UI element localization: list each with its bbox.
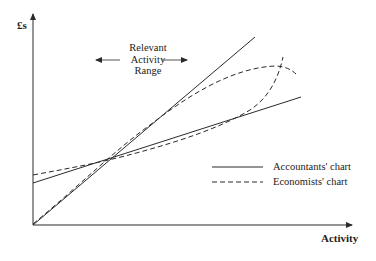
legend-item-economists: Economists' chart — [273, 176, 348, 187]
range-text-line3: Range — [118, 65, 178, 77]
y-axis-label: £s — [17, 19, 27, 31]
x-axis-label: Activity — [321, 232, 358, 244]
accountants-cost-line — [33, 97, 301, 183]
range-text-line1: Relevant — [118, 42, 178, 54]
economists-revenue-curve — [33, 66, 296, 224]
range-text-line2: Activity — [118, 54, 178, 66]
legend-item-accountants: Accountants' chart — [273, 161, 351, 172]
relevant-range-annotation: Relevant Activity Range — [118, 42, 178, 77]
break-even-chart — [0, 0, 376, 261]
